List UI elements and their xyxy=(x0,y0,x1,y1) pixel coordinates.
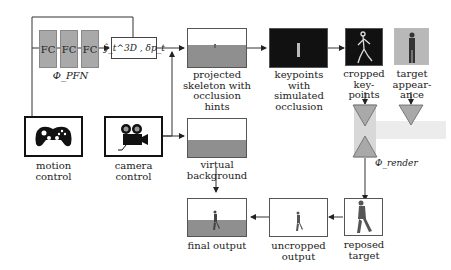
render-label: Φ_render xyxy=(375,158,415,169)
keypoints-label: keypoints with simulated occlusion xyxy=(263,70,335,112)
final-output-frame xyxy=(187,198,247,237)
person-figure xyxy=(395,29,429,65)
fc-block-1: FC xyxy=(39,30,57,68)
person-figure xyxy=(270,199,327,236)
reposed-target-label: reposed target xyxy=(337,240,391,261)
uncropped-output-label: uncropped output xyxy=(261,241,336,262)
skeleton-figure xyxy=(346,29,382,65)
projected-skeleton-frame xyxy=(187,28,247,68)
keypoints-frame xyxy=(269,28,328,68)
uncropped-output-frame xyxy=(269,198,328,237)
skeleton-figure xyxy=(214,44,216,48)
fc-block-2: FC xyxy=(60,30,78,68)
virtual-background-label: virtual background xyxy=(176,160,258,181)
camera-control-box[interactable] xyxy=(104,116,163,157)
gamepad-icon xyxy=(26,118,81,155)
cropped-keypoints-frame xyxy=(345,28,383,66)
fc-block-3: FC xyxy=(81,30,99,68)
reposed-target-frame xyxy=(344,198,383,236)
ground-plane xyxy=(188,45,246,67)
pfn-output-box: ŷ_t^3D , δp_t xyxy=(111,37,157,59)
projected-skeleton-label: projected skeleton with occlusion hints xyxy=(176,70,258,112)
person-figure xyxy=(188,199,246,236)
target-appearance-label: target appear- ance xyxy=(387,69,437,101)
keypoint-figure xyxy=(297,43,300,57)
person-figure xyxy=(345,199,382,235)
cropped-keypoints-label: cropped key- points xyxy=(339,69,389,101)
diagram-canvas: FC FC FC Φ_PFN ŷ_t^3D , δp_t motion cont… xyxy=(0,0,451,270)
virtual-background-frame xyxy=(187,118,247,158)
motion-control-label: motion control xyxy=(20,161,87,182)
pfn-label: Φ_PFN xyxy=(48,71,93,82)
target-appearance-frame xyxy=(394,28,429,65)
camera-control-label: camera control xyxy=(100,161,167,182)
movie-camera-icon xyxy=(106,118,161,155)
final-output-label: final output xyxy=(176,241,258,252)
appearance-encoder-icon xyxy=(398,104,424,126)
render-encoder-decoder-icon xyxy=(352,104,378,158)
ground-plane xyxy=(188,140,246,157)
motion-control-box[interactable] xyxy=(24,116,83,157)
